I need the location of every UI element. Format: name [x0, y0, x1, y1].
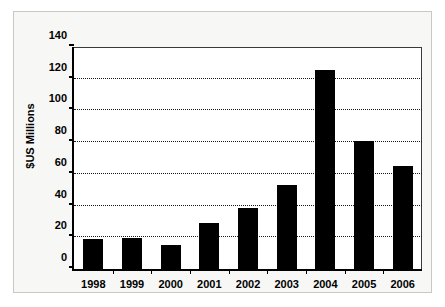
x-axis-tick-label: 2003: [267, 278, 306, 290]
x-axis-tick-mark: [190, 269, 191, 274]
bar-slot: [190, 47, 229, 269]
y-axis-tick-label: 20: [55, 219, 67, 231]
x-axis-tick-label: 1998: [74, 278, 113, 290]
bar[interactable]: [354, 141, 374, 269]
bar-slot: [151, 47, 190, 269]
y-axis-tick-label: 80: [55, 124, 67, 136]
bar-slot: [383, 47, 422, 269]
bar-slot: [74, 47, 113, 269]
x-axis-tick-label: 2002: [229, 278, 268, 290]
bar-slot: [229, 47, 268, 269]
x-axis-tick-mark: [345, 269, 346, 274]
bar[interactable]: [83, 239, 103, 269]
x-axis-labels-group: 199819992000200120022003200420052006: [74, 278, 422, 290]
bar-slot: [113, 47, 152, 269]
y-axis-tick-label: 120: [49, 61, 67, 73]
x-axis-tick-label: 2005: [345, 278, 384, 290]
x-axis-tick-mark: [383, 269, 384, 274]
bars-group: [74, 47, 422, 269]
bar[interactable]: [238, 208, 258, 269]
plot-area: 020406080100120140 199819992000200120022…: [72, 47, 422, 271]
x-axis-tick-mark: [229, 269, 230, 274]
x-axis-tick-mark: [306, 269, 307, 274]
bar[interactable]: [315, 70, 335, 269]
y-axis-tick-label: 60: [55, 156, 67, 168]
bar[interactable]: [277, 185, 297, 269]
bar[interactable]: [393, 166, 413, 269]
x-axis-tick-mark: [267, 269, 268, 274]
y-axis-tick-label: 40: [55, 188, 67, 200]
x-axis-tick-label: 2000: [151, 278, 190, 290]
y-axis-tick-mark: [69, 44, 74, 46]
bar-slot: [267, 47, 306, 269]
chart-frame: $US Millions 020406080100120140 19981999…: [13, 11, 432, 293]
bar-slot: [306, 47, 345, 269]
x-axis-tick-label: 2006: [383, 278, 422, 290]
bar-slot: [345, 47, 384, 269]
x-axis-tick-label: 2004: [306, 278, 345, 290]
y-axis-title: $US Millions: [24, 71, 36, 201]
x-axis-tick-mark: [151, 269, 152, 274]
bar[interactable]: [161, 245, 181, 269]
y-axis-tick-label: 0: [61, 251, 67, 263]
y-axis-tick-label: 100: [49, 92, 67, 104]
y-axis-tick-label: 140: [49, 29, 67, 41]
x-axis-tick-label: 1999: [113, 278, 152, 290]
x-axis-tick-mark: [113, 269, 114, 274]
bar[interactable]: [122, 238, 142, 269]
bar[interactable]: [199, 223, 219, 269]
x-axis-tick-label: 2001: [190, 278, 229, 290]
